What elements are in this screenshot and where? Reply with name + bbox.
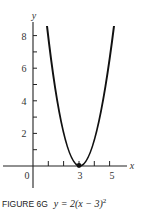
parabola-chart: 2 4 6 8 0 3 5 y x (0, 0, 144, 221)
parabola-curve (47, 26, 114, 166)
vertex-point (77, 163, 82, 168)
x-tick-label-3: 3 (78, 170, 83, 181)
y-ticks (33, 36, 37, 150)
x-tick-label-5: 5 (110, 170, 115, 181)
figure-label: FIGURE 6G (2, 199, 48, 209)
x-axis-label: x (129, 160, 135, 171)
y-tick-label-2: 2 (22, 128, 27, 139)
y-axis-label: y (31, 10, 37, 21)
figure-equation: y = 2(x − 3)2 (54, 198, 107, 209)
figure-caption: FIGURE 6Gy = 2(x − 3)2 (2, 197, 144, 209)
y-tick-label-8: 8 (22, 31, 27, 42)
y-tick-label-6: 6 (22, 63, 27, 74)
x-tick-label-0: 0 (25, 170, 30, 181)
y-tick-label-4: 4 (22, 96, 27, 107)
equation-exponent: 2 (103, 197, 107, 205)
